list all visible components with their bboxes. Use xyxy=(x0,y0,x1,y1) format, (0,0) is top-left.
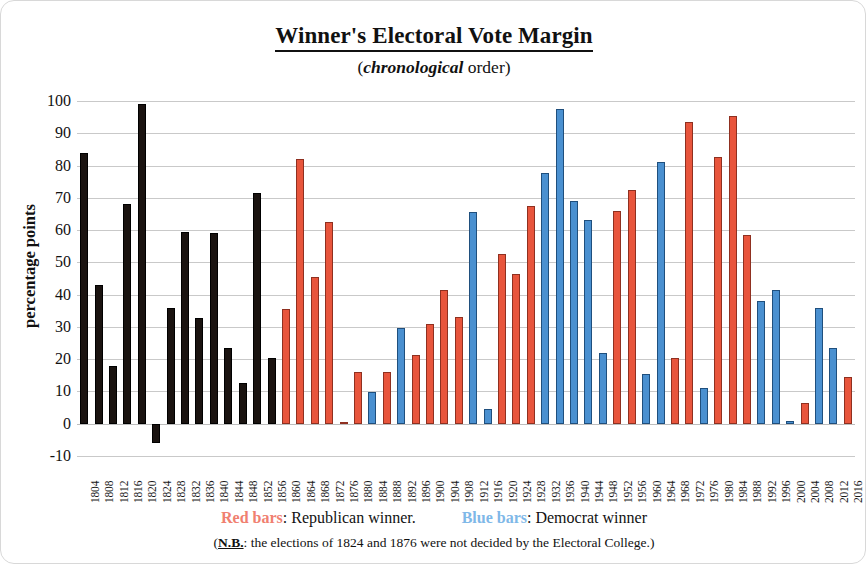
bar-1964 xyxy=(657,162,665,423)
bar-1992 xyxy=(757,301,765,424)
bar-1892 xyxy=(397,328,405,424)
bar-1872 xyxy=(325,222,333,424)
y-tick-label: 90 xyxy=(25,125,71,141)
x-tick-label: 1972 xyxy=(694,481,706,503)
y-tick-label: 100 xyxy=(25,93,71,109)
x-tick-label: 1856 xyxy=(276,481,288,503)
bar-1804 xyxy=(80,153,88,424)
x-tick-label: 1888 xyxy=(391,481,403,503)
x-tick-label: 1988 xyxy=(751,481,763,503)
y-tick-label: 60 xyxy=(25,222,71,238)
bar-1928 xyxy=(527,206,535,424)
bar-1852 xyxy=(253,193,261,424)
gridline--10 xyxy=(77,456,855,457)
x-tick-label: 1940 xyxy=(579,481,591,503)
x-tick-label: 1960 xyxy=(651,481,663,503)
x-tick-label: 1976 xyxy=(708,481,720,503)
x-tick-label: 1828 xyxy=(175,481,187,503)
x-tick-label: 1816 xyxy=(132,481,144,503)
bar-1856 xyxy=(268,358,276,424)
x-tick-label: 1864 xyxy=(305,481,317,503)
x-tick-label: 1868 xyxy=(319,481,331,503)
x-tick-label: 1900 xyxy=(434,481,446,503)
bar-1824 xyxy=(152,424,160,443)
x-tick-label: 2016 xyxy=(852,481,864,503)
x-tick-label: 1860 xyxy=(290,481,302,503)
x-tick-label: 1904 xyxy=(449,481,461,503)
bar-1836 xyxy=(195,318,203,424)
x-tick-label: 1948 xyxy=(607,481,619,503)
bar-1840 xyxy=(210,233,218,423)
x-tick-label: 1980 xyxy=(723,481,735,503)
bar-1864 xyxy=(296,159,304,424)
y-tick-label: 0 xyxy=(25,416,71,432)
bar-1816 xyxy=(123,204,131,423)
bar-1944 xyxy=(584,220,592,423)
x-axis-tick-labels: 1804180818121816182018241828183218361840… xyxy=(77,459,855,511)
x-tick-label: 1992 xyxy=(766,481,778,503)
bar-1936 xyxy=(556,109,564,424)
bar-1996 xyxy=(772,290,780,424)
x-tick-label: 1920 xyxy=(507,481,519,503)
x-tick-label: 1848 xyxy=(247,481,259,503)
bar-1848 xyxy=(239,383,247,423)
y-tick-label: 10 xyxy=(25,383,71,399)
x-tick-label: 1924 xyxy=(521,481,533,503)
x-tick-label: 1984 xyxy=(737,481,749,503)
x-tick-label: 1836 xyxy=(204,481,216,503)
bar-2008 xyxy=(815,308,823,424)
bar-1984 xyxy=(729,116,737,424)
x-tick-label: 1880 xyxy=(362,481,374,503)
bar-1904 xyxy=(440,290,448,424)
bar-1940 xyxy=(570,201,578,424)
bar-1884 xyxy=(368,392,376,424)
x-tick-label: 1876 xyxy=(348,481,360,503)
chart-figure: Winner's Electoral Vote Margin (chronolo… xyxy=(0,0,866,564)
bar-1972 xyxy=(685,122,693,424)
x-tick-label: 1928 xyxy=(535,481,547,503)
bar-1976 xyxy=(700,388,708,424)
bar-1820 xyxy=(138,104,146,424)
plot-area xyxy=(77,101,855,456)
x-tick-label: 1908 xyxy=(463,481,475,503)
bar-1880 xyxy=(354,372,362,424)
bar-1876 xyxy=(340,422,348,424)
y-tick-label: 30 xyxy=(25,319,71,335)
bar-1908 xyxy=(455,317,463,424)
x-tick-label: 1820 xyxy=(146,481,158,503)
footnote-tag: N.B. xyxy=(218,535,244,550)
bar-1956 xyxy=(628,190,636,424)
bar-2000 xyxy=(786,421,794,424)
legend-swatch-label: Blue bars xyxy=(462,509,527,526)
y-tick-label: -10 xyxy=(25,448,71,464)
bar-1868 xyxy=(311,277,319,424)
bar-1832 xyxy=(181,232,189,424)
x-tick-label: 1804 xyxy=(89,481,101,503)
x-tick-label: 1840 xyxy=(218,481,230,503)
x-tick-label: 1964 xyxy=(665,481,677,503)
bar-1980 xyxy=(714,157,722,423)
x-tick-label: 1996 xyxy=(780,481,792,503)
bar-2012 xyxy=(829,348,837,424)
plot-wrapper: percentage points 1009080706050403020100… xyxy=(1,1,866,564)
x-tick-label: 1824 xyxy=(161,481,173,503)
bar-1828 xyxy=(167,308,175,424)
y-axis-tick-labels: 1009080706050403020100-10 xyxy=(25,101,71,456)
x-tick-label: 1892 xyxy=(406,481,418,503)
y-tick-label: 70 xyxy=(25,190,71,206)
bar-1916 xyxy=(484,409,492,424)
x-tick-label: 1956 xyxy=(636,481,648,503)
bar-1808 xyxy=(95,285,103,424)
bar-1952 xyxy=(613,211,621,424)
footnote-text: : the elections of 1824 and 1876 were no… xyxy=(244,535,655,550)
y-tick-label: 80 xyxy=(25,158,71,174)
x-tick-label: 1968 xyxy=(679,481,691,503)
x-tick-label: 2008 xyxy=(823,481,835,503)
x-tick-label: 1912 xyxy=(478,481,490,503)
x-tick-label: 1916 xyxy=(492,481,504,503)
bar-2016 xyxy=(844,377,852,424)
footnote: (N.B.: the elections of 1824 and 1876 we… xyxy=(1,535,866,551)
x-tick-label: 1944 xyxy=(593,481,605,503)
legend: Red bars: Republican winner.Blue bars: D… xyxy=(1,509,866,527)
y-tick-label: 50 xyxy=(25,254,71,270)
